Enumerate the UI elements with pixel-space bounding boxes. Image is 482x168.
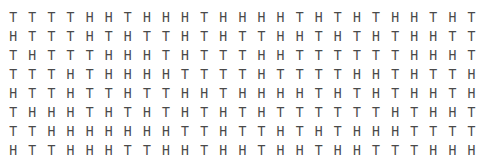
grid-cell: T <box>47 9 66 28</box>
grid-cell: T <box>143 142 162 161</box>
grid-cell: H <box>410 85 429 104</box>
grid-cell: H <box>391 123 410 142</box>
grid-cell: T <box>334 123 353 142</box>
grid-cell: T <box>200 47 219 66</box>
grid-cell: T <box>238 104 257 123</box>
grid-cell: T <box>295 9 314 28</box>
grid-cell: T <box>391 142 410 161</box>
grid-cell: T <box>391 66 410 85</box>
grid-cell: H <box>200 85 219 104</box>
grid-cell: H <box>104 123 123 142</box>
grid-cell: H <box>372 66 391 85</box>
grid-cell: T <box>467 104 482 123</box>
grid-cell: H <box>372 85 391 104</box>
grid-cell: H <box>219 9 238 28</box>
grid-cell: H <box>162 9 181 28</box>
grid-cell: H <box>143 104 162 123</box>
grid-cell: H <box>104 142 123 161</box>
grid-cell: T <box>124 142 143 161</box>
grid-cell: H <box>181 142 200 161</box>
grid-cell: T <box>315 47 334 66</box>
grid-cell: H <box>181 85 200 104</box>
grid-cell: T <box>315 85 334 104</box>
grid-cell: H <box>353 9 372 28</box>
grid-cell: H <box>391 104 410 123</box>
grid-cell: T <box>467 47 482 66</box>
grid-cell: H <box>391 9 410 28</box>
grid-cell: H <box>257 9 276 28</box>
grid-cell: T <box>257 28 276 47</box>
grid-cell: H <box>85 123 104 142</box>
grid-cell: T <box>47 142 66 161</box>
grid-cell: T <box>257 123 276 142</box>
grid-cell: T <box>410 123 429 142</box>
grid-cell: H <box>429 142 448 161</box>
grid-cell: H <box>448 9 467 28</box>
grid-cell: T <box>315 28 334 47</box>
grid-cell: H <box>429 47 448 66</box>
grid-cell: H <box>9 142 28 161</box>
grid-cell: T <box>200 142 219 161</box>
grid-cell: T <box>85 66 104 85</box>
grid-cell: H <box>85 9 104 28</box>
grid-cell: H <box>162 123 181 142</box>
grid-cell: H <box>353 123 372 142</box>
grid-cell: H <box>276 28 295 47</box>
grid-cell: H <box>467 85 482 104</box>
grid-cell: H <box>104 66 123 85</box>
grid-cell: T <box>104 85 123 104</box>
grid-cell: T <box>104 28 123 47</box>
grid-cell: T <box>467 9 482 28</box>
grid-cell: T <box>276 66 295 85</box>
grid-cell: H <box>410 28 429 47</box>
grid-cell: T <box>219 66 238 85</box>
grid-cell: T <box>85 104 104 123</box>
grid-cell: H <box>28 47 47 66</box>
grid-cell: H <box>124 66 143 85</box>
grid-cell: H <box>238 9 257 28</box>
grid-cell: H <box>28 104 47 123</box>
grid-cell: H <box>181 28 200 47</box>
grid-cell: T <box>66 28 85 47</box>
grid-cell: T <box>315 66 334 85</box>
grid-cell: T <box>448 123 467 142</box>
grid-cell: H <box>353 142 372 161</box>
grid-cell: H <box>257 104 276 123</box>
grid-cell: T <box>410 142 429 161</box>
grid-cell: H <box>448 142 467 161</box>
grid-cell: T <box>47 47 66 66</box>
grid-cell: T <box>181 66 200 85</box>
grid-cell: H <box>124 28 143 47</box>
grid-cell: T <box>9 9 28 28</box>
grid-cell: T <box>28 123 47 142</box>
grid-cell: T <box>124 9 143 28</box>
grid-cell: H <box>66 104 85 123</box>
grid-cell: H <box>66 142 85 161</box>
grid-cell: H <box>276 85 295 104</box>
grid-cell: H <box>66 85 85 104</box>
grid-cell: H <box>410 9 429 28</box>
grid-cell: T <box>334 47 353 66</box>
grid-cell: T <box>391 85 410 104</box>
grid-cell: H <box>334 142 353 161</box>
grid-cell: T <box>372 47 391 66</box>
grid-cell: H <box>410 47 429 66</box>
grid-cell: T <box>200 123 219 142</box>
grid-cell: T <box>200 28 219 47</box>
grid-cell: H <box>276 9 295 28</box>
grid-cell: T <box>295 104 314 123</box>
grid-cell: T <box>448 85 467 104</box>
grid-cell: T <box>353 28 372 47</box>
grid-cell: H <box>47 104 66 123</box>
grid-cell: H <box>353 66 372 85</box>
grid-cell: H <box>124 85 143 104</box>
grid-cell: H <box>334 28 353 47</box>
grid-cell: H <box>429 104 448 123</box>
grid-cell: H <box>104 47 123 66</box>
grid-cell: H <box>276 47 295 66</box>
grid-cell: H <box>9 85 28 104</box>
grid-cell: T <box>143 28 162 47</box>
grid-cell: T <box>410 104 429 123</box>
grid-cell: H <box>257 47 276 66</box>
grid-cell: T <box>295 47 314 66</box>
